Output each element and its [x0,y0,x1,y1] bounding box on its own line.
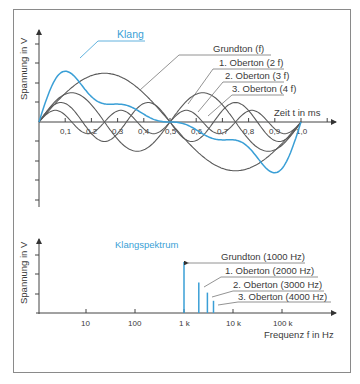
label-oberton-3: 3. Oberton (4 f) [232,83,296,94]
tick-label: 10 [81,319,90,328]
x-axis-label: Zeit t in ms [274,107,321,118]
klang-leader [80,41,145,58]
y-axis-label: Spannung in V [18,241,29,304]
spectrum-lines [184,262,214,313]
x-axis-label: Frequenz f in Hz [264,329,334,340]
tick-label: 100 k [273,319,294,328]
tick-label: 1 k [179,319,191,328]
time-domain-chart: 0,1 0,2 0,3 0,4 0,5 0,6 0,7 0,8 0,9 1,0 … [18,28,336,207]
label-oberton-1: 1. Oberton (2 f) [219,57,283,68]
tick-label: 100 [128,319,142,328]
x-tick-labels: 0,1 0,2 0,3 0,4 0,5 0,6 0,7 0,8 0,9 1,0 [60,127,308,136]
x-tick-labels: 10 100 1 k 10 k 100 k [81,319,294,328]
tick-label: 10 k [226,319,242,328]
label-grundton: Grundton (1000 Hz) [221,251,305,262]
tick-label: 0,7 [217,127,229,136]
spectrum-chart: 10 100 1 k 10 k 100 k Spannung in V Freq… [18,239,336,340]
spectrum-title: Klangspektrum [115,239,178,250]
label-oberton-2: 2. Oberton (3000 Hz) [233,279,322,290]
label-oberton-1: 1. Oberton (2000 Hz) [225,265,314,276]
label-oberton-2: 2. Oberton (3 f) [225,70,289,81]
label-oberton-3: 3. Oberton (4000 Hz) [238,291,327,302]
y-ticks [35,255,39,294]
figure: 0,1 0,2 0,3 0,4 0,5 0,6 0,7 0,8 0,9 1,0 … [0,0,360,384]
y-axis-label: Spannung in V [18,37,29,100]
y-ticks [35,44,39,200]
label-grundton: Grundton (f) [213,43,264,54]
tick-label: 0,1 [60,127,72,136]
klang-label: Klang [117,28,144,40]
